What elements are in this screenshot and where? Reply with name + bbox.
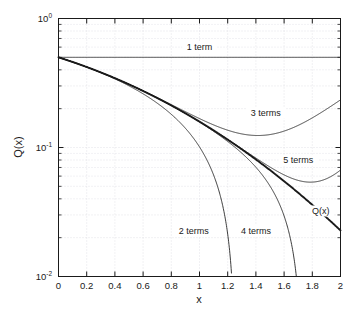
x-axis-title: x [196,293,202,305]
curve-label-4-terms: 4 terms [236,225,275,236]
y-axis-title: Q(x) [12,136,24,157]
x-tick-label: 0.4 [108,280,121,291]
x-tick-label: 0.6 [136,280,149,291]
svg-text:Q(x): Q(x) [312,206,330,216]
svg-text:1 term: 1 term [187,42,213,52]
svg-text:4 terms: 4 terms [241,226,272,236]
svg-text:3 terms: 3 terms [251,108,282,118]
curve-label-q-x-: Q(x) [308,206,333,217]
svg-text:5 terms: 5 terms [283,155,314,165]
curve-label-1-term: 1 term [182,42,216,53]
x-tick-label: 1.8 [306,280,319,291]
x-tick-label: 0.8 [165,280,178,291]
curve-label-5-terms: 5 terms [279,155,318,166]
curve-label-2-terms: 2 terms [174,225,213,236]
x-tick-label: 1.6 [277,280,290,291]
qfunction-semilog-chart: 10010-110-2 00.20.40.60.811.21.41.61.82 … [0,0,356,323]
x-tick-label: 1.2 [221,280,234,291]
svg-text:2 terms: 2 terms [179,226,210,236]
x-tick-label: 1.4 [249,280,262,291]
x-tick-label: 0.2 [80,280,93,291]
x-tick-label: 1 [197,280,202,291]
x-tick-label: 2 [338,280,343,291]
x-tick-label: 0 [56,280,61,291]
curve-label-3-terms: 3 terms [246,108,285,119]
